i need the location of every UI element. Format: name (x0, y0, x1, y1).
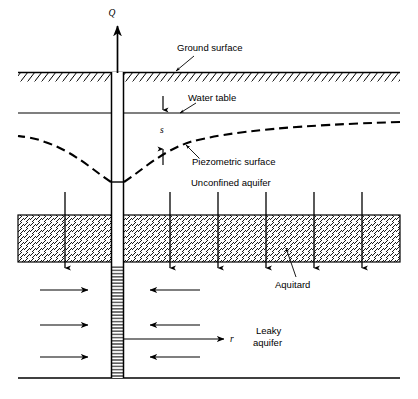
drawdown-label: s (160, 125, 164, 135)
well-screen (112, 265, 124, 378)
piezometric-surface-left-limb (18, 136, 111, 182)
flow-arrows-right-group (150, 290, 200, 357)
piezometric-surface-label: Piezometric surface (192, 156, 275, 167)
leaky-aquifer-cross-section: Q Ground surface Water table s Piezometr… (0, 0, 418, 399)
ground-surface-label: Ground surface (177, 42, 242, 53)
well-group (112, 72, 124, 378)
unconfined-aquifer-label: Unconfined aquifer (191, 177, 271, 188)
water-table-label: Water table (188, 92, 236, 103)
radial-distance-label: r (230, 334, 234, 344)
leaky-aquifer-label-group: Leaky aquifer (253, 325, 282, 348)
discharge-label: Q (109, 8, 116, 18)
discharge-arrow-group: Q (109, 8, 118, 73)
ground-surface-hatching (18, 73, 400, 82)
piezometric-surface-right-limb (124, 122, 400, 182)
water-table-label-group: Water table (180, 92, 236, 113)
ground-surface-group (18, 73, 400, 82)
figure-container: Q Ground surface Water table s Piezometr… (0, 0, 418, 399)
water-table-leader (180, 103, 196, 113)
piezometric-surface-label-group: Piezometric surface (186, 145, 275, 167)
radial-axis-group: r (124, 334, 234, 344)
leaky-aquifer-label-line1: Leaky (256, 325, 282, 336)
leaky-aquifer-label-line2: aquifer (253, 337, 282, 348)
piezometric-surface-group (18, 122, 400, 182)
ground-surface-leader (176, 56, 194, 71)
aquitard-label: Aquitard (275, 279, 310, 290)
flow-arrows-left-group (40, 290, 88, 357)
aquitard-group (18, 215, 400, 262)
aquitard-band (18, 215, 400, 262)
ground-surface-label-group: Ground surface (176, 42, 242, 71)
